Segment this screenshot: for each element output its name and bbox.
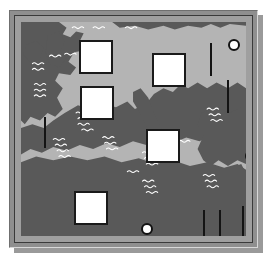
- white-square-marker[interactable]: [146, 129, 180, 163]
- vertical-bar-marker[interactable]: [203, 210, 205, 236]
- white-square-marker[interactable]: [80, 86, 114, 120]
- map-frame-inner-border: [14, 15, 253, 243]
- map-viewport[interactable]: [21, 22, 246, 236]
- white-circle-marker[interactable]: [228, 39, 240, 51]
- map-base-layer: [21, 22, 246, 236]
- vertical-bar-marker[interactable]: [44, 117, 46, 148]
- land-north-africa: [21, 156, 246, 236]
- vertical-bar-marker[interactable]: [219, 210, 221, 236]
- white-square-marker[interactable]: [74, 191, 108, 225]
- vertical-bar-marker[interactable]: [242, 206, 244, 236]
- map-frame: [9, 10, 258, 248]
- white-circle-marker[interactable]: [141, 223, 153, 235]
- vertical-bar-marker[interactable]: [227, 80, 229, 113]
- vertical-bar-marker[interactable]: [210, 43, 212, 76]
- white-square-marker[interactable]: [79, 40, 113, 74]
- land-anatolia-levant: [198, 107, 246, 166]
- white-square-marker[interactable]: [152, 53, 186, 87]
- map-figure: [0, 0, 272, 260]
